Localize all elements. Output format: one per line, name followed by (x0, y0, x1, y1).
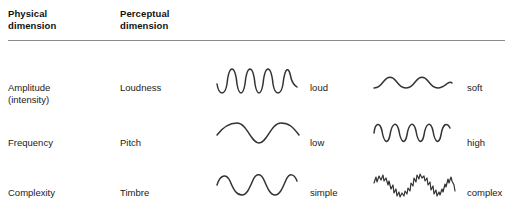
column-header-physical-dimension: Physical dimension (8, 8, 56, 31)
waveform-label-simple: simple (310, 187, 337, 199)
row-perceptual-timbre: Timbre (120, 187, 149, 199)
waveform-label-loud: loud (310, 82, 328, 94)
row-perceptual-pitch: Pitch (120, 137, 141, 149)
row-perceptual-loudness: Loudness (120, 82, 161, 94)
column-header-perceptual-dimension: Perceptual dimension (120, 8, 170, 31)
waveform-soft-icon (372, 60, 458, 102)
header-divider-rule (8, 40, 505, 41)
row-physical-frequency: Frequency (8, 137, 53, 149)
waveform-high-pitch-icon (372, 113, 458, 153)
waveform-label-complex: complex (467, 187, 502, 199)
waveform-label-low: low (310, 137, 324, 149)
row-physical-amplitude: Amplitude (intensity) (8, 82, 50, 105)
row-physical-complexity: Complexity (8, 187, 55, 199)
sound-dimensions-figure: Physical dimension Perceptual dimension … (0, 0, 516, 219)
waveform-complex-icon (372, 163, 458, 205)
waveform-label-high: high (467, 137, 485, 149)
waveform-label-soft: soft (467, 82, 482, 94)
waveform-loud-icon (215, 60, 305, 102)
waveform-simple-icon (215, 163, 305, 205)
waveform-low-pitch-icon (215, 113, 305, 153)
